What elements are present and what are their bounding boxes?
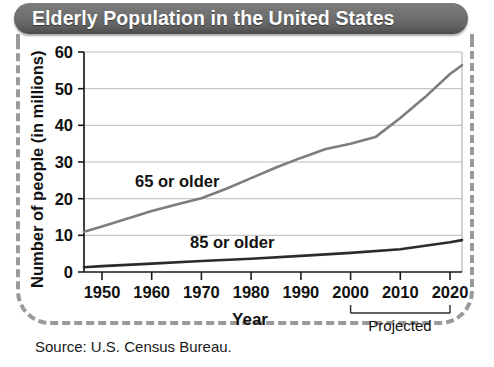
projected-label: Projected	[368, 317, 431, 334]
x-tick-labels: 1950 1960 1970 1980 1990 2000 2010 2020	[84, 283, 469, 301]
y-tick-20: 20	[55, 190, 73, 208]
x-tick-1980: 1980	[233, 283, 270, 301]
x-axis-title: Year	[232, 310, 268, 329]
x-tick-2000: 2000	[332, 283, 369, 301]
y-axis-title: Number of people (in millions)	[28, 51, 46, 288]
y-tick-labels: 60 50 40 30 20 10 0	[55, 43, 73, 281]
series-label-65-or-older: 65 or older	[135, 172, 220, 190]
x-axis	[84, 272, 462, 280]
projected-bracket	[351, 305, 450, 313]
y-tick-0: 0	[64, 263, 73, 281]
x-tick-1950: 1950	[84, 283, 121, 301]
y-tick-50: 50	[55, 80, 73, 98]
x-tick-1960: 1960	[133, 283, 170, 301]
x-tick-2020: 2020	[432, 283, 469, 301]
y-tick-60: 60	[55, 43, 73, 61]
series-label-85-or-older: 85 or older	[190, 233, 275, 251]
source-note: Source: U.S. Census Bureau.	[35, 338, 232, 355]
x-tick-1990: 1990	[283, 283, 320, 301]
line-chart: Number of people (in millions) 60 50 40 …	[0, 0, 494, 367]
y-tick-40: 40	[55, 116, 73, 134]
y-tick-30: 30	[55, 153, 73, 171]
x-tick-2010: 2010	[382, 283, 419, 301]
y-axis	[78, 52, 84, 272]
y-tick-10: 10	[55, 226, 73, 244]
x-tick-1970: 1970	[183, 283, 220, 301]
